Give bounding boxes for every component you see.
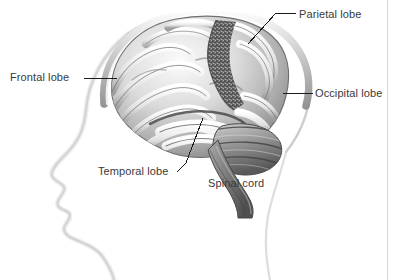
label-frontal-lobe: Frontal lobe	[10, 71, 69, 84]
label-parietal-lobe: Parietal lobe	[299, 8, 361, 21]
label-occipital-lobe: Occipital lobe	[315, 87, 382, 100]
panel-divider-rule	[387, 0, 388, 280]
brain-illustration	[0, 0, 407, 280]
brain-anatomy-figure: Frontal lobe Parietal lobe Occipital lob…	[0, 0, 407, 280]
label-temporal-lobe: Temporal lobe	[98, 165, 168, 178]
label-spinal-cord: Spinal cord	[208, 177, 264, 190]
